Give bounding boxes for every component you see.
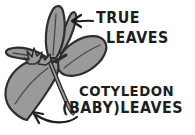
left-arrow-shaft <box>74 21 93 22</box>
true-leaves-label-line2: LEAVES <box>106 31 169 46</box>
true-leaves-label-line1: TRUE <box>96 11 140 26</box>
cotyledon-label-line2: (BABY)LEAVES <box>62 101 183 116</box>
cotyledon-label-line1: COTYLEDON <box>79 84 174 98</box>
seedling-diagram: TRUE LEAVES COTYLEDON (BABY)LEAVES <box>0 0 195 135</box>
